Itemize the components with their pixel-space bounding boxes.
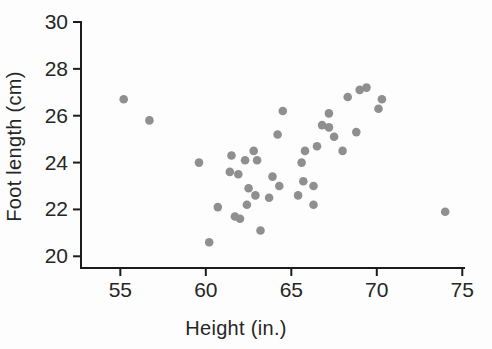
data-point xyxy=(325,123,334,132)
x-tick-label: 60 xyxy=(194,278,217,301)
data-point xyxy=(309,182,318,191)
data-point xyxy=(205,238,214,247)
data-point xyxy=(244,184,253,193)
data-point xyxy=(343,93,352,102)
data-point xyxy=(236,215,245,224)
data-point xyxy=(352,128,361,137)
data-point xyxy=(251,191,260,200)
data-point xyxy=(256,226,265,235)
data-point xyxy=(226,168,235,177)
data-point xyxy=(378,95,387,104)
y-tick-label: 20 xyxy=(45,244,68,267)
scatter-figure: 5560657075202224262830 Foot length (cm) … xyxy=(0,0,492,349)
data-point xyxy=(362,83,371,92)
data-point xyxy=(265,193,274,202)
x-tick-label: 70 xyxy=(365,278,388,301)
data-point xyxy=(374,104,383,113)
x-tick-label: 75 xyxy=(451,278,474,301)
data-point xyxy=(301,147,310,156)
y-tick-label: 28 xyxy=(45,57,68,80)
data-point xyxy=(441,208,450,217)
data-point xyxy=(325,109,334,118)
y-tick-label: 22 xyxy=(45,197,68,220)
data-point xyxy=(299,177,308,186)
axis-frame xyxy=(81,22,464,268)
y-axis-title: Foot length (cm) xyxy=(3,67,26,227)
data-point xyxy=(234,170,243,179)
data-point xyxy=(227,151,236,160)
scatter-plot-canvas: 5560657075202224262830 xyxy=(0,0,492,349)
data-point xyxy=(119,95,128,104)
data-point xyxy=(253,156,262,165)
data-point xyxy=(249,147,258,156)
y-tick-label: 30 xyxy=(45,10,68,33)
data-point xyxy=(309,200,318,209)
data-point xyxy=(214,203,223,212)
data-point xyxy=(297,158,306,167)
data-point xyxy=(338,147,347,156)
data-point xyxy=(279,107,288,116)
data-point xyxy=(275,182,284,191)
data-point xyxy=(145,116,154,125)
data-point xyxy=(195,158,204,167)
data-point xyxy=(243,200,252,209)
data-point xyxy=(294,191,303,200)
x-tick-label: 65 xyxy=(280,278,303,301)
data-point xyxy=(241,156,250,165)
data-point xyxy=(273,130,282,139)
x-tick-label: 55 xyxy=(109,278,132,301)
data-point xyxy=(268,172,277,181)
y-tick-label: 26 xyxy=(45,104,68,127)
x-axis-title: Height (in.) xyxy=(0,317,472,340)
y-tick-label: 24 xyxy=(45,151,69,174)
data-point xyxy=(313,142,322,151)
data-point xyxy=(330,133,339,142)
